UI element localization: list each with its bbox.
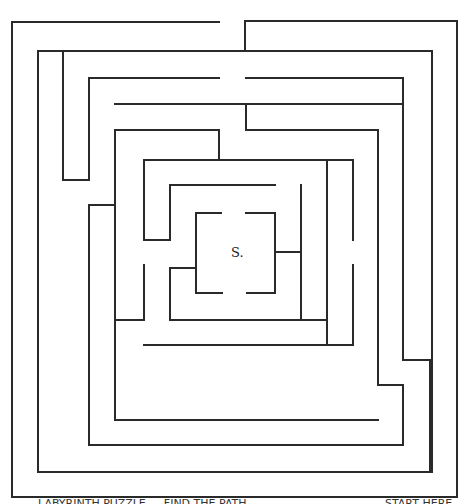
caption-right-truncated: START HERE (385, 499, 452, 504)
start-label: S. (231, 245, 244, 260)
caption-left-truncated: LABYRINTH PUZZLE — FIND THE PATH (38, 499, 247, 504)
